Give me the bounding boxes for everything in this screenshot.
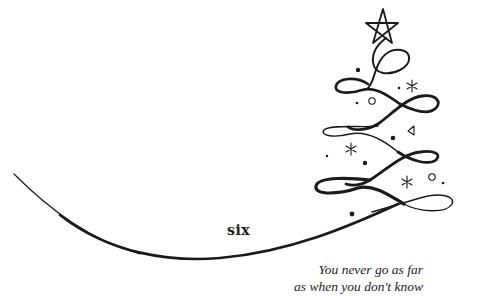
tree-trunk-swirl	[368, 38, 409, 88]
circle-ornament	[369, 98, 375, 104]
circle-ornament	[429, 174, 435, 180]
epigraph-line-1: You never go as far	[294, 261, 423, 278]
star-icon	[366, 9, 398, 43]
tree-tier-1	[336, 79, 400, 104]
chapter-label: six	[227, 222, 250, 238]
triangle-ornament	[408, 126, 414, 135]
tree-tier-5	[316, 178, 404, 204]
christmas-tree-illustration	[0, 0, 477, 296]
epigraph: You never go as far as when you don't kn…	[294, 261, 423, 295]
sweeping-curve	[14, 174, 140, 254]
epigraph-line-2: as when you don't know	[294, 278, 423, 295]
